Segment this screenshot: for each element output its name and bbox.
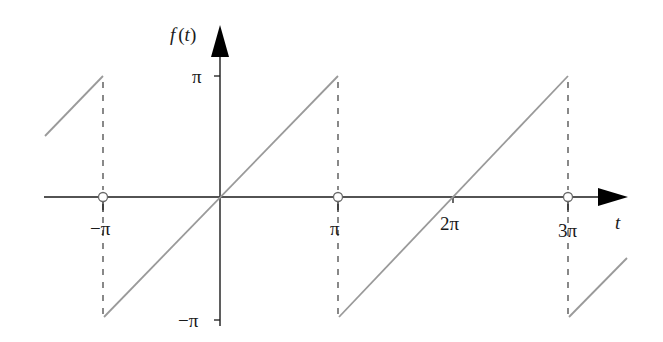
open-circle-neg-pi bbox=[99, 193, 108, 202]
y-label-pi: π bbox=[192, 66, 202, 87]
t-axis-label: t bbox=[615, 212, 621, 233]
f-label-f: f bbox=[170, 24, 178, 45]
x-label-pi: π bbox=[330, 218, 340, 239]
open-circle-3pi bbox=[564, 193, 573, 202]
x-label-neg-pi: −π bbox=[90, 218, 111, 239]
f-axis-arrow-icon bbox=[211, 25, 229, 57]
x-label-3pi: 3π bbox=[558, 220, 578, 241]
sawtooth-diagram: f(t) t π −π −π π 2π 3π bbox=[0, 0, 663, 342]
f-axis-label: f(t) bbox=[170, 24, 196, 46]
t-axis-arrow-icon bbox=[598, 188, 628, 206]
open-circle-pi bbox=[334, 193, 343, 202]
y-label-neg-pi: −π bbox=[178, 310, 199, 331]
signal-segment-4 bbox=[569, 258, 627, 317]
signal-segment-1 bbox=[45, 76, 103, 136]
x-label-2pi: 2π bbox=[440, 213, 460, 234]
f-label-paren-close: ) bbox=[190, 24, 196, 46]
